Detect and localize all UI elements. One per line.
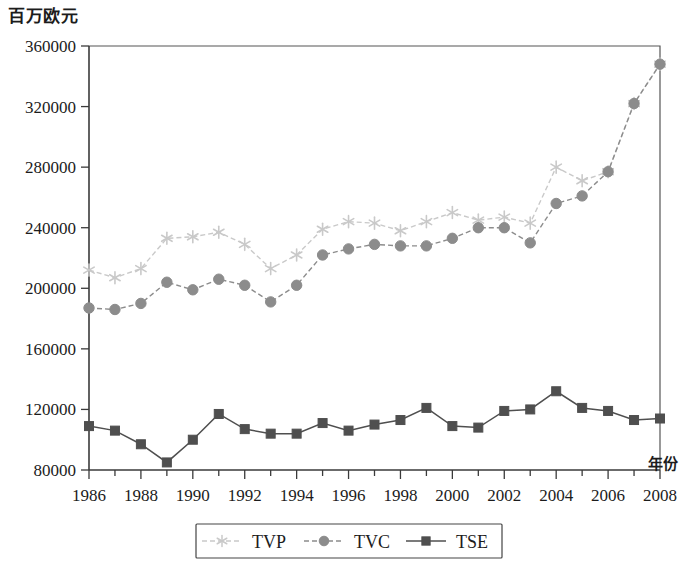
data-point-marker bbox=[136, 440, 145, 449]
data-point-marker bbox=[188, 435, 197, 444]
data-point-marker bbox=[291, 249, 301, 261]
data-point-marker bbox=[188, 285, 198, 295]
data-point-marker bbox=[630, 416, 639, 425]
data-point-marker bbox=[604, 406, 613, 415]
data-point-marker bbox=[317, 223, 327, 235]
x-tick-label: 1992 bbox=[228, 486, 262, 505]
y-tick-label: 80000 bbox=[34, 461, 77, 480]
data-point-marker bbox=[240, 425, 249, 434]
data-point-marker bbox=[317, 250, 327, 260]
y-tick-label: 200000 bbox=[25, 279, 76, 298]
x-axis-title: 年份 bbox=[648, 452, 678, 473]
data-point-marker bbox=[84, 264, 94, 276]
data-point-marker bbox=[370, 420, 379, 429]
data-point-marker bbox=[214, 409, 223, 418]
y-axis-title: 百万欧元 bbox=[8, 2, 78, 27]
series-tvc bbox=[84, 59, 665, 315]
x-tick-label: 2008 bbox=[643, 486, 677, 505]
y-tick-label: 280000 bbox=[25, 158, 76, 177]
data-point-marker bbox=[577, 191, 587, 201]
x-tick-label: 1994 bbox=[280, 486, 315, 505]
data-point-marker bbox=[369, 217, 379, 229]
data-point-marker bbox=[110, 304, 120, 314]
data-point-marker bbox=[629, 98, 639, 108]
data-point-marker bbox=[395, 241, 405, 251]
data-point-marker bbox=[474, 423, 483, 432]
data-point-marker bbox=[603, 166, 613, 176]
x-tick-label: 1998 bbox=[383, 486, 417, 505]
data-point-marker bbox=[214, 274, 224, 284]
data-point-marker bbox=[421, 216, 431, 228]
data-point-marker bbox=[266, 429, 275, 438]
data-point-marker bbox=[136, 298, 146, 308]
y-tick-label: 240000 bbox=[25, 219, 76, 238]
y-tick-label: 320000 bbox=[25, 98, 76, 117]
plot-frame bbox=[89, 46, 660, 470]
x-tick-label: 2002 bbox=[487, 486, 521, 505]
data-point-marker bbox=[396, 416, 405, 425]
data-point-marker bbox=[473, 223, 483, 233]
data-point-marker bbox=[577, 175, 587, 187]
data-point-marker bbox=[551, 198, 561, 208]
data-point-marker bbox=[395, 225, 405, 237]
data-point-marker bbox=[421, 241, 431, 251]
x-tick-label: 1988 bbox=[124, 486, 158, 505]
data-point-marker bbox=[344, 426, 353, 435]
data-point-marker bbox=[525, 217, 535, 229]
data-point-marker bbox=[526, 405, 535, 414]
data-point-marker bbox=[500, 406, 509, 415]
data-point-marker bbox=[292, 429, 301, 438]
data-point-marker bbox=[552, 387, 561, 396]
legend-label-tse: TSE bbox=[456, 532, 488, 552]
data-point-marker bbox=[499, 211, 509, 223]
data-point-marker bbox=[551, 161, 561, 173]
data-point-marker bbox=[110, 272, 120, 284]
data-point-marker bbox=[369, 239, 379, 249]
data-point-marker bbox=[655, 59, 665, 69]
chart-figure: 百万欧元 年份 80000120000160000200000240000280… bbox=[0, 0, 692, 563]
y-tick-label: 160000 bbox=[25, 340, 76, 359]
y-tick-label: 360000 bbox=[25, 37, 76, 56]
data-point-marker bbox=[525, 238, 535, 248]
data-point-marker bbox=[84, 303, 94, 313]
data-point-marker bbox=[240, 280, 250, 290]
legend-label-tvp: TVP bbox=[252, 532, 286, 552]
legend-label-tvc: TVC bbox=[354, 532, 390, 552]
x-tick-label: 2006 bbox=[591, 486, 625, 505]
x-tick-label: 2004 bbox=[539, 486, 574, 505]
data-point-marker bbox=[265, 297, 275, 307]
x-tick-label: 1986 bbox=[72, 486, 106, 505]
data-point-marker bbox=[265, 263, 275, 275]
data-point-marker bbox=[162, 458, 171, 467]
x-tick-label: 2000 bbox=[435, 486, 469, 505]
series-tse bbox=[85, 387, 665, 467]
x-tick-label: 1996 bbox=[332, 486, 366, 505]
data-point-marker bbox=[319, 536, 329, 546]
data-point-marker bbox=[110, 426, 119, 435]
x-tick-label: 1990 bbox=[176, 486, 210, 505]
data-point-marker bbox=[85, 422, 94, 431]
series-line-tvc bbox=[89, 64, 660, 309]
data-point-marker bbox=[291, 280, 301, 290]
data-point-marker bbox=[343, 244, 353, 254]
data-point-marker bbox=[214, 226, 224, 238]
data-point-marker bbox=[448, 422, 457, 431]
line-chart-svg: 8000012000016000020000024000028000032000… bbox=[0, 0, 692, 563]
data-point-marker bbox=[578, 403, 587, 412]
y-tick-label: 120000 bbox=[25, 400, 76, 419]
data-point-marker bbox=[422, 403, 431, 412]
data-point-marker bbox=[162, 277, 172, 287]
data-point-marker bbox=[447, 233, 457, 243]
data-point-marker bbox=[499, 223, 509, 233]
data-point-marker bbox=[318, 419, 327, 428]
data-point-marker bbox=[656, 414, 665, 423]
data-point-marker bbox=[422, 537, 430, 545]
data-point-marker bbox=[447, 207, 457, 219]
